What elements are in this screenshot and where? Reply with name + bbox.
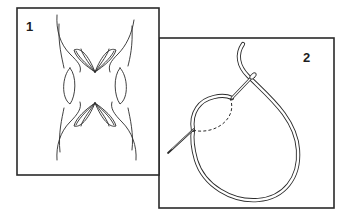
panel-1-frame bbox=[17, 8, 159, 175]
illustration-figure: 2 1 bbox=[0, 0, 355, 218]
panel-2-label: 2 bbox=[303, 50, 310, 65]
panel-1-label: 1 bbox=[26, 19, 33, 34]
panel-1: 1 bbox=[17, 8, 159, 175]
panel-2: 2 bbox=[159, 38, 334, 208]
